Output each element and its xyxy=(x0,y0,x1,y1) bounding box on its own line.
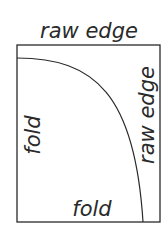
label-right-raw-edge: raw edge xyxy=(135,66,159,164)
label-top-raw-edge: raw edge xyxy=(40,19,138,43)
label-left-fold: fold xyxy=(21,115,45,155)
label-bottom-fold: fold xyxy=(72,197,112,221)
fabric-fold-diagram: raw edge fold fold raw edge xyxy=(0,0,168,240)
